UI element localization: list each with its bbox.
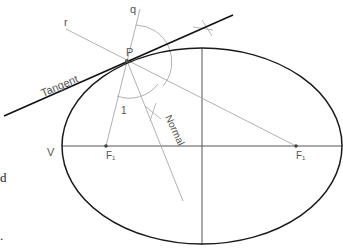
label-q: q: [130, 3, 136, 15]
label-r: r: [64, 16, 68, 28]
label-tangent: Tangent: [39, 72, 80, 98]
label-p: P: [126, 46, 133, 58]
label-angle-1: 1: [121, 105, 127, 116]
margin-text-d: d: [0, 170, 7, 186]
point-p: [125, 59, 129, 63]
label-focus-2: F₁: [296, 150, 306, 161]
focus-2-point: [294, 144, 298, 148]
label-vertex: V: [47, 146, 55, 158]
margin-text-dot: .: [0, 228, 3, 244]
focus-1-point: [104, 144, 108, 148]
tangent-line: [4, 15, 233, 116]
line-q-from-f1: [106, 9, 140, 146]
label-focus-1: F₁: [106, 150, 116, 161]
label-normal: Normal: [163, 113, 187, 147]
